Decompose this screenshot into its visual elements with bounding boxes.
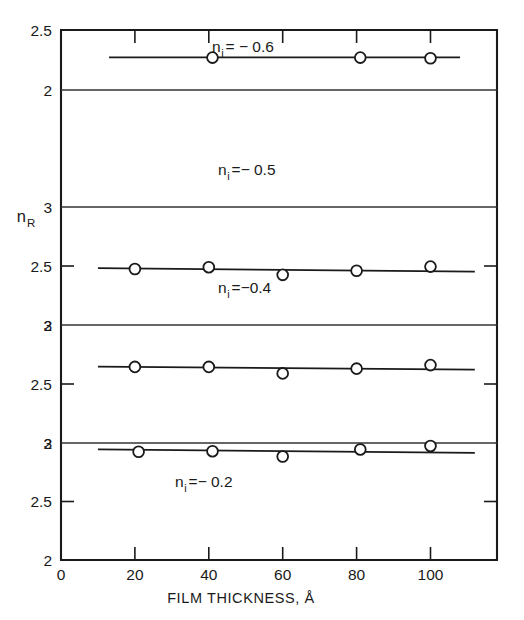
panel-annotation-value: =− 0.2 [189,473,233,490]
data-point [207,446,218,457]
x-tick-label: 100 [418,566,444,583]
panel-annotation-subscript: i [184,482,186,494]
panel-annotation-subscript: i [221,47,223,59]
x-axis-label: FILM THICKNESS, Å [167,590,315,606]
data-point [351,265,362,276]
panel-annotation: ni=− 0.5 [218,161,276,182]
y-tick-label: 2 [43,82,52,99]
data-point [351,363,362,374]
y-tick-label: 3 [43,199,52,216]
y-tick-label: 2 [43,552,52,569]
data-point [129,361,140,372]
y-tick-label: 2.5 [30,258,52,275]
panel-annotation: ni=−0.4 [218,279,272,300]
y-tick-label: 3 [43,435,52,452]
panel-annotation: ni=− 0.2 [175,473,233,494]
y-axis-label-subscript: R [27,217,35,229]
y-tick-label: 2.5 [30,376,52,393]
x-tick-label: 40 [200,566,218,583]
y-axis-label: nR [17,207,36,229]
data-point [355,52,366,63]
panel-annotation-value: = − 0.6 [226,38,274,55]
y-tick-label: 3 [43,317,52,334]
data-point [277,368,288,379]
data-point [133,446,144,457]
data-point [203,262,214,273]
figure-container: 2.5232.5232.5232.52nR020406080100FILM TH… [0,0,524,620]
data-point [203,361,214,372]
x-tick-label: 80 [348,566,366,583]
data-point [277,451,288,462]
panel-annotation: ni= − 0.6 [212,38,274,59]
y-tick-label: 2.5 [30,493,52,510]
data-point [355,444,366,455]
x-tick-label: 20 [126,566,144,583]
data-point [277,269,288,280]
data-point [425,261,436,272]
plot-frame [61,30,497,560]
panel-annotation-value: =−0.4 [232,279,272,296]
data-point [425,53,436,64]
panel-annotation-value: =− 0.5 [232,161,276,178]
data-point [425,360,436,371]
x-tick-label: 60 [274,566,292,583]
panel-annotation-subscript: i [227,288,229,300]
data-point [129,264,140,275]
panel-annotation-subscript: i [227,170,229,182]
y-tick-label: 2.5 [30,22,52,39]
data-point [425,441,436,452]
x-tick-label: 0 [57,566,66,583]
scatter-plot: 2.5232.5232.5232.52nR020406080100FILM TH… [0,0,524,620]
